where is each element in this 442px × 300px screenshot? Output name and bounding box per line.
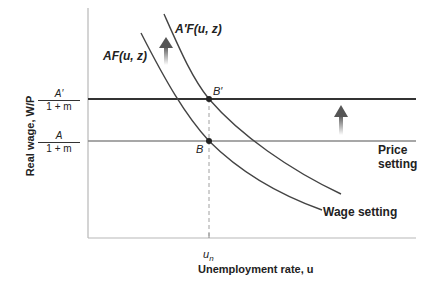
wage-setting-curve-new	[164, 14, 341, 194]
point-label-b-old: B	[196, 143, 203, 155]
wage-setting-label: Wage setting	[323, 205, 397, 219]
point-label-b-new: B′	[213, 85, 222, 97]
curve-label-new: A′F(u, z)	[175, 22, 222, 36]
y-tick-old-numerator: A	[38, 130, 80, 143]
curve-label-old: AF(u, z)	[103, 49, 147, 63]
y-tick-old-denominator: 1 + m	[38, 143, 80, 154]
y-tick-new-numerator: A′	[38, 88, 80, 101]
y-tick-new-denominator: 1 + m	[38, 101, 80, 112]
price-setting-label: Price setting	[378, 143, 417, 171]
y-tick-old: A 1 + m	[38, 130, 80, 154]
un-tick-label: un	[203, 248, 214, 263]
y-axis-label: Real wage, W/P	[24, 76, 36, 196]
shift-arrow-icon	[159, 37, 173, 65]
price-setting-label-line1: Price	[378, 143, 417, 157]
shift-arrow-icon	[334, 105, 348, 135]
point-b-old	[206, 138, 212, 144]
un-tick-subscript: n	[209, 254, 213, 263]
point-b-new	[206, 96, 212, 102]
x-axis-label: Unemployment rate, u	[198, 263, 314, 275]
y-tick-new: A′ 1 + m	[38, 88, 80, 112]
price-setting-label-line2: setting	[378, 157, 417, 171]
